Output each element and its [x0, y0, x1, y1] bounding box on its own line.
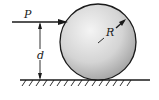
height-label: d — [37, 50, 44, 61]
radius-label: R — [106, 27, 114, 38]
ball — [60, 4, 136, 80]
diagram-canvas: P d R — [0, 0, 159, 100]
ground-hatching — [22, 80, 131, 86]
force-label: P — [24, 9, 31, 20]
